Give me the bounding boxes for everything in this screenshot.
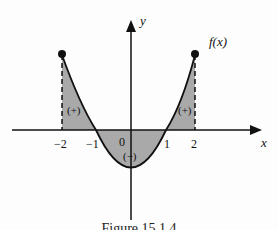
y-axis-label: y [138, 13, 146, 28]
y-axis-arrow-icon [126, 20, 136, 32]
endpoint-left [58, 50, 66, 58]
function-area-diagram: y x f(x) −2 −1 0 1 2 (+) (−) (+) [0, 0, 278, 230]
region-sign-left: (+) [67, 104, 81, 117]
x-tick-0: 0 [119, 135, 125, 149]
x-tick-1: 1 [164, 137, 170, 151]
x-tick-2: 2 [191, 137, 197, 151]
region-sign-middle: (−) [123, 150, 137, 163]
function-label: f(x) [209, 34, 227, 49]
x-tick-neg2: −2 [54, 137, 67, 151]
figure-caption: Figure 15.1.4 [0, 222, 278, 230]
region-sign-right: (+) [178, 104, 192, 117]
x-tick-neg1: −1 [86, 137, 99, 151]
x-axis-label: x [260, 135, 267, 150]
endpoint-right [191, 50, 199, 58]
x-axis-arrow-icon [250, 125, 262, 135]
